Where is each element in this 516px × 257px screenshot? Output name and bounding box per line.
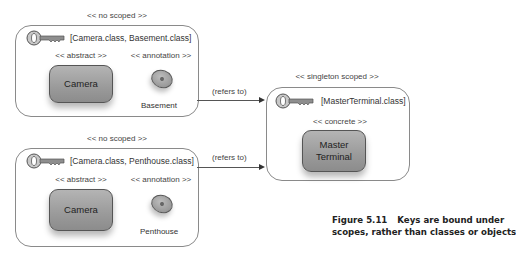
scope-stereotype-bottom: << no scoped >> <box>62 134 172 143</box>
class-stereotype: << abstract >> <box>46 175 116 184</box>
key-binding-text: [Camera.class, Penthouse.class] <box>70 156 194 166</box>
key-binding-text: [Camera.class, Basement.class] <box>70 33 191 43</box>
arrow-right-icon <box>259 97 265 103</box>
scope-box-penthouse: [Camera.class, Penthouse.class] << abstr… <box>15 148 199 247</box>
arrow-line-top <box>197 100 260 101</box>
annotation-ellipse-icon <box>149 192 176 216</box>
class-stereotype: << concrete >> <box>305 117 375 126</box>
class-box-camera: Camera <box>49 65 113 103</box>
key-icon <box>275 93 315 109</box>
key-binding-text: [MasterTerminal.class] <box>321 96 406 106</box>
arrow-label-bottom: (refers to) <box>212 153 247 162</box>
class-name: Camera <box>64 78 98 90</box>
scope-box-basement: [Camera.class, Basement.class] << abstra… <box>15 25 199 117</box>
class-box-master-terminal: Master Terminal <box>302 130 366 172</box>
class-name-line1: Master <box>319 139 348 151</box>
figure-caption: Figure 5.11Keys are bound under scopes, … <box>332 214 516 238</box>
annotation-stereotype: << annotation >> <box>126 175 196 184</box>
arrow-line-bottom <box>197 167 260 168</box>
caption-line2: scopes, rather than classes or objects <box>332 226 516 238</box>
class-stereotype: << abstract >> <box>46 51 116 60</box>
class-name: Camera <box>64 204 98 216</box>
class-box-camera: Camera <box>49 189 113 231</box>
arrow-right-icon <box>259 164 265 170</box>
annotation-name: Penthouse <box>140 227 178 236</box>
scope-stereotype-singleton: << singleton scoped >> <box>282 72 392 81</box>
arrow-label-top: (refers to) <box>212 87 247 96</box>
key-icon <box>26 153 66 169</box>
class-name-line2: Terminal <box>316 151 352 163</box>
annotation-ellipse-icon <box>149 67 176 91</box>
scope-box-master-terminal: [MasterTerminal.class] << concrete >> Ma… <box>266 87 410 181</box>
annotation-stereotype: << annotation >> <box>126 51 196 60</box>
annotation-name: Basement <box>141 101 177 110</box>
figure-number: Figure 5.11 <box>332 215 387 225</box>
key-icon <box>26 30 66 46</box>
caption-line1: Keys are bound under <box>397 215 504 225</box>
scope-stereotype-top: << no scoped >> <box>62 11 172 20</box>
